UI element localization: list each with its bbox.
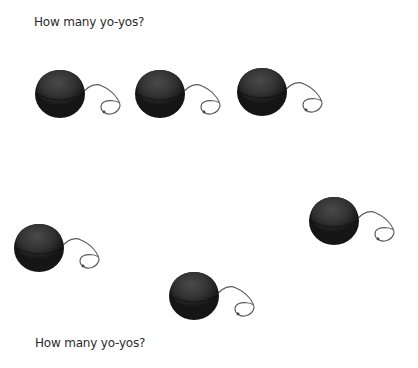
question-text-top: How many yo-yos? xyxy=(34,15,144,29)
yoyo-icon xyxy=(236,64,328,120)
question-text-bottom: How many yo-yos? xyxy=(35,336,145,350)
yoyo-icon xyxy=(168,268,260,324)
yoyo-icon xyxy=(134,66,226,122)
yoyo-icon xyxy=(13,220,105,276)
yoyo-icon xyxy=(308,193,400,249)
yoyo-icon xyxy=(34,66,126,122)
